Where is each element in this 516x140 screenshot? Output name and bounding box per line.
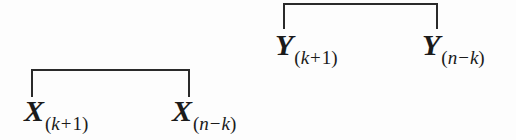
- y-upper-subscript-index: n: [448, 47, 458, 68]
- x-lower-subscript-operator: +: [60, 113, 73, 134]
- x-lower-subscript-index: k: [51, 113, 59, 134]
- order-statistics-figure: X(k+1) X(n−k) Y(k+1) Y(n−k): [0, 0, 516, 140]
- x-lower-order-statistic-label: X(k+1): [24, 96, 87, 126]
- y-lower-order-statistic-label: Y(k+1): [275, 30, 337, 60]
- y-lower-subscript-operator: +: [309, 47, 322, 68]
- x-group-bracket: [31, 69, 190, 97]
- y-group-bracket: [283, 3, 438, 29]
- y-upper-subscript-operator: −: [457, 47, 470, 68]
- x-lower-subscript: (k+1): [45, 113, 88, 134]
- x-upper-subscript-operand: k: [222, 113, 230, 134]
- y-lower-subscript-index: k: [301, 47, 309, 68]
- x-lower-variable: X: [24, 94, 44, 127]
- x-upper-subscript: (n−k): [193, 113, 236, 134]
- y-upper-variable: Y: [422, 28, 440, 61]
- x-lower-subscript-operand: 1: [73, 113, 83, 134]
- x-lower-subscript-close: ): [82, 113, 88, 134]
- y-lower-subscript: (k+1): [294, 47, 337, 68]
- x-upper-order-statistic-label: X(n−k): [172, 96, 235, 126]
- x-upper-variable: X: [172, 94, 192, 127]
- x-upper-subscript-index: n: [199, 113, 209, 134]
- y-lower-subscript-close: ): [331, 47, 337, 68]
- y-lower-subscript-operand: 1: [322, 47, 332, 68]
- y-lower-variable: Y: [275, 28, 293, 61]
- y-upper-subscript-close: ): [478, 47, 484, 68]
- x-upper-subscript-close: ): [230, 113, 236, 134]
- x-upper-subscript-operator: −: [209, 113, 222, 134]
- y-upper-order-statistic-label: Y(n−k): [422, 30, 484, 60]
- y-upper-subscript: (n−k): [441, 47, 484, 68]
